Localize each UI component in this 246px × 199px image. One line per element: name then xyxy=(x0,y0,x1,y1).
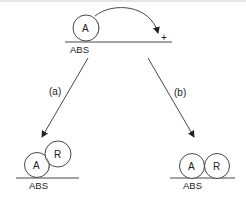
bl-surface-label: ABS xyxy=(29,180,48,191)
migration-arrow-icon xyxy=(95,8,158,33)
path-a-label: (a) xyxy=(49,86,61,97)
path-b-label: (b) xyxy=(174,87,186,98)
br-surface-label: ABS xyxy=(183,180,202,191)
vacant-site-symbol: + xyxy=(161,32,167,43)
bl-reactant-label: R xyxy=(54,149,61,160)
top-adsorbate-label: A xyxy=(82,23,89,34)
reaction-diagram: A ABS + (a) (b) A R ABS A R ABS xyxy=(0,0,246,199)
path-b-arrow-icon xyxy=(148,58,194,137)
bottom-right-state: A R ABS xyxy=(170,154,235,192)
br-adsorbate-label: A xyxy=(188,161,195,172)
br-reactant-label: R xyxy=(213,161,220,172)
bottom-left-state: A R ABS xyxy=(16,141,79,191)
top-adsorption-state: A ABS + xyxy=(65,8,172,55)
path-a-arrow-icon xyxy=(42,58,88,137)
bl-adsorbate-label: A xyxy=(33,160,40,171)
top-surface-label: ABS xyxy=(70,44,89,55)
